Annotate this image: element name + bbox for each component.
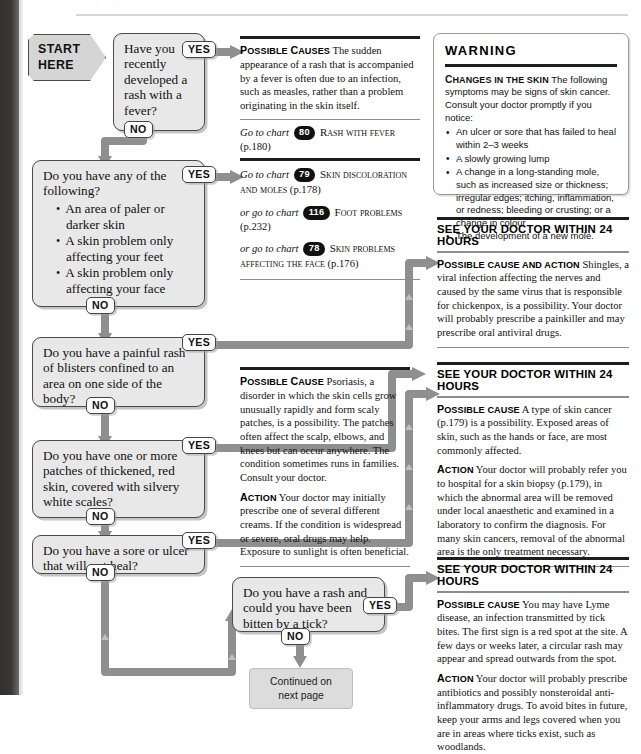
- advice-lead: POSSIBLE CAUSE: [240, 377, 324, 387]
- panel-shingles: SEE YOUR DOCTOR WITHIN 24 HOURS POSSIBLE…: [437, 217, 629, 348]
- action-lead: ACTION: [437, 674, 474, 684]
- no-tag-q4[interactable]: NO: [86, 508, 115, 525]
- yes-label: YES: [188, 534, 210, 546]
- no-label: NO: [130, 123, 147, 135]
- warning-lead: CHANGES IN THE SKIN: [445, 75, 549, 85]
- panel-lead: POSSIBLE CAUSE: [437, 405, 520, 415]
- question-text: Do you have a painful rash of blisters c…: [43, 345, 185, 406]
- question-text: Do you have a sore or ulcer that will no…: [43, 543, 189, 573]
- panel-skin-cancer: SEE YOUR DOCTOR WITHIN 24 HOURS POSSIBLE…: [437, 362, 629, 567]
- continued-line2: next page: [260, 689, 342, 703]
- list-item: An ulcer or sore that has failed to heal…: [445, 126, 617, 151]
- advice-rash-with-fever: POSSIBLE CAUSES The sudden appearance of…: [240, 36, 420, 161]
- rule: [437, 557, 629, 560]
- chart-number-badge: 79: [294, 168, 316, 182]
- panel-heading: SEE YOUR DOCTOR WITHIN 24 HOURS: [437, 223, 629, 247]
- panel-body: Shingles, a viral infection affecting th…: [437, 259, 629, 338]
- advice-psoriasis: POSSIBLE CAUSE Psoriasis, a disorder in …: [240, 367, 410, 567]
- chart-referral[interactable]: or go to chart 116 Foot problems (p.232): [240, 205, 420, 234]
- yes-tag-q1[interactable]: YES: [182, 41, 216, 58]
- chart-referral[interactable]: Go to chart 79 Skin discoloration and mo…: [240, 167, 420, 197]
- question-bullet-list: An area of paler or darker skin A skin p…: [43, 201, 195, 296]
- continued-line1: Continued on: [260, 675, 342, 689]
- rule: [240, 36, 420, 39]
- continued-on-next-page-box[interactable]: Continued on next page: [249, 668, 353, 709]
- advice-skin-changes-referrals: Go to chart 79 Skin discoloration and mo…: [240, 158, 420, 280]
- panel-lead: POSSIBLE CAUSE: [437, 600, 520, 610]
- no-tag-q2[interactable]: NO: [86, 297, 115, 314]
- advice-body: Psoriasis, a disorder in which the skin …: [240, 376, 399, 483]
- chart-number-badge: 78: [303, 242, 325, 256]
- referral-prefix: or go to chart: [240, 207, 299, 218]
- rule: [437, 217, 629, 220]
- yes-tag-q4[interactable]: YES: [182, 437, 216, 454]
- referral-page: (p.180): [240, 141, 271, 152]
- chart-number-badge: 80: [294, 126, 316, 140]
- question-box-blister-rash[interactable]: Do you have a painful rash of blisters c…: [32, 337, 205, 407]
- no-tag-q3[interactable]: NO: [86, 397, 115, 414]
- referral-title: Rash with fever: [320, 126, 395, 138]
- question-box-scaly-patches[interactable]: Do you have one or more patches of thick…: [32, 440, 205, 518]
- panel-lyme-disease: SEE YOUR DOCTOR WITHIN 24 HOURS POSSIBLE…: [437, 557, 629, 754]
- action-body: Your doctor will probably prescribe anti…: [437, 673, 627, 752]
- question-text: Have you recently developed a rash with …: [124, 41, 187, 118]
- list-item: A skin problem only affecting your face: [56, 265, 195, 296]
- no-label: NO: [92, 299, 109, 311]
- list-item: A skin problem only affecting your feet: [56, 233, 195, 264]
- list-item: An area of paler or darker skin: [56, 201, 195, 232]
- question-box-nonhealing-sore[interactable]: Do you have a sore or ulcer that will no…: [32, 535, 205, 574]
- advice-lead: POSSIBLE CAUSES: [240, 46, 330, 56]
- no-tag-q6[interactable]: NO: [281, 628, 310, 645]
- referral-page: (p.176): [328, 258, 359, 269]
- yes-tag-q5[interactable]: YES: [182, 532, 216, 549]
- chart-referral[interactable]: or go to chart 78 Skin problems affectin…: [240, 241, 420, 271]
- panel-lead: POSSIBLE CAUSE AND ACTION: [437, 260, 580, 270]
- no-label: NO: [92, 399, 109, 411]
- warning-box: WARNING CHANGES IN THE SKIN The followin…: [433, 33, 629, 195]
- panel-heading: SEE YOUR DOCTOR WITHIN 24 HOURS: [437, 563, 629, 587]
- referral-page: (p.232): [240, 221, 271, 232]
- list-item: A slowly growing lump: [445, 153, 617, 166]
- action-lead: ACTION: [437, 465, 474, 475]
- no-tag-q1[interactable]: NO: [124, 121, 153, 138]
- question-text: Do you have one or more patches of thick…: [43, 448, 179, 509]
- referral-title: Foot problems: [335, 206, 403, 218]
- yes-label: YES: [369, 599, 391, 611]
- chart-referral[interactable]: Go to chart 80 Rash with fever (p.180): [240, 125, 420, 154]
- rule: [437, 362, 629, 365]
- rule: [240, 158, 420, 161]
- yes-label: YES: [188, 439, 210, 451]
- referral-prefix: Go to chart: [240, 169, 289, 180]
- panel-heading: SEE YOUR DOCTOR WITHIN 24 HOURS: [437, 368, 629, 392]
- no-tag-q5[interactable]: NO: [86, 564, 115, 581]
- yes-label: YES: [188, 168, 210, 180]
- rule: [445, 64, 617, 67]
- question-text: Do you have a rash and could you have be…: [243, 585, 367, 631]
- no-label: NO: [287, 630, 304, 642]
- start-here-line2: HERE: [38, 58, 74, 74]
- no-label: NO: [92, 566, 109, 578]
- yes-tag-q3[interactable]: YES: [182, 334, 216, 351]
- referral-page: (p.178): [290, 184, 321, 195]
- question-box-skin-changes[interactable]: Do you have any of the following? An are…: [32, 160, 205, 307]
- start-here-line1: START: [38, 42, 80, 58]
- warning-title: WARNING: [445, 43, 617, 58]
- action-body: Your doctor will probably refer you to h…: [437, 464, 627, 557]
- start-here-marker: START HERE: [28, 34, 106, 81]
- referral-prefix: or go to chart: [240, 243, 299, 254]
- yes-tag-q6[interactable]: YES: [363, 597, 397, 614]
- yes-tag-q2[interactable]: YES: [182, 166, 216, 183]
- referral-prefix: Go to chart: [240, 127, 289, 138]
- yes-label: YES: [188, 43, 210, 55]
- question-text: Do you have any of the following?: [43, 168, 166, 198]
- no-label: NO: [92, 510, 109, 522]
- rule: [240, 367, 410, 370]
- yes-label: YES: [188, 336, 210, 348]
- action-lead: ACTION: [240, 493, 277, 503]
- chart-number-badge: 116: [303, 206, 330, 220]
